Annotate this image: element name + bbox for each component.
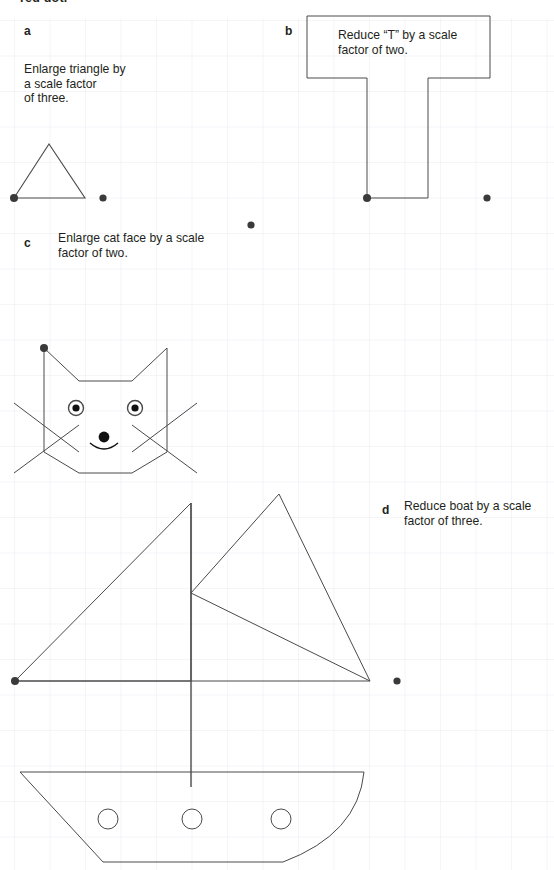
cat-nose: [99, 432, 110, 443]
grid-dot-a-1: [99, 194, 106, 201]
part-label-d: d: [382, 503, 389, 517]
centre-of-enlargement-dot-c: [40, 344, 48, 352]
part-label-b: b: [285, 24, 292, 38]
grid-dot-b-1: [483, 194, 490, 201]
cat-eye-pupil-1: [72, 404, 79, 411]
grid-and-figures-canvas: [0, 0, 554, 870]
instruction-c: Enlarge cat face by a scale factor of tw…: [58, 231, 258, 260]
grid-dot-d-1: [393, 677, 400, 684]
grid-background: [0, 18, 554, 870]
centre-of-enlargement-dot-d: [11, 677, 19, 685]
centre-of-enlargement-dot-a: [10, 194, 18, 202]
centre-of-enlargement-dot-b: [363, 194, 371, 202]
part-label-a: a: [24, 24, 31, 38]
grid-dot-c-1: [247, 221, 254, 228]
worksheet-page: red dot. a Enlarge triangle by a scale f…: [0, 0, 554, 870]
instruction-a: Enlarge triangle by a scale factor of th…: [24, 62, 194, 106]
instruction-d: Reduce boat by a scale factor of three.: [404, 499, 554, 528]
instruction-b: Reduce “T” by a scale factor of two.: [338, 28, 508, 57]
part-label-c: c: [24, 236, 31, 250]
cat-eye-pupil-2: [131, 404, 138, 411]
